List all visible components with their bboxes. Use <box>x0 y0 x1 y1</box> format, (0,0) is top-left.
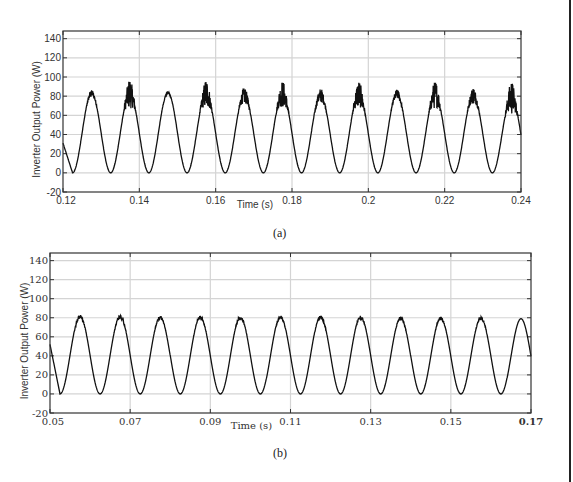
y-tick-label: 120 <box>44 52 61 63</box>
chart-panel-b: -200204060801001201400.050.070.090.110.1… <box>19 253 543 431</box>
y-tick-label: 40 <box>35 350 48 361</box>
y-tick-label: 100 <box>29 293 48 304</box>
y-tick-label: 140 <box>29 255 48 266</box>
x-tick-label: 0.13 <box>360 416 382 427</box>
x-tick-label: 0.11 <box>279 416 301 427</box>
y-tick-label: 100 <box>44 72 61 83</box>
y-tick-label: 40 <box>50 129 62 140</box>
y-tick-label: 80 <box>35 312 48 323</box>
x-tick-label: 0.14 <box>130 195 150 206</box>
x-tick-label: 0.16 <box>206 195 226 206</box>
y-axis-label: Inverter Output Power (W) <box>31 61 42 178</box>
x-tick-label: 0.09 <box>199 416 221 427</box>
x-tick-label: 0.17 <box>519 416 543 427</box>
x-tick-label: 0.07 <box>119 416 141 427</box>
y-axis-label: Inverter Output Power (W) <box>19 283 30 400</box>
y-tick-label: 60 <box>50 110 62 121</box>
x-tick-label: 0.24 <box>511 195 531 206</box>
y-tick-label: 0 <box>55 167 61 178</box>
x-tick-label: 0.12 <box>56 195 76 206</box>
y-tick-label: 120 <box>29 274 48 285</box>
x-tick-label: 0.22 <box>435 195 455 206</box>
chart-panel-a: -200204060801001201400.120.140.160.180.2… <box>31 31 531 210</box>
y-tick-label: 20 <box>50 148 62 159</box>
x-axis-label: Time (s) <box>237 199 273 210</box>
caption-b: (b) <box>273 446 287 461</box>
y-tick-label: 20 <box>35 369 48 380</box>
x-tick-label: 0.15 <box>440 416 462 427</box>
y-tick-label: 80 <box>50 91 62 102</box>
x-tick-label: 0.05 <box>42 416 64 427</box>
y-tick-label: 60 <box>35 331 48 342</box>
x-axis-label: Time (s) <box>231 420 272 431</box>
y-tick-label: 140 <box>44 33 61 44</box>
caption-a: (a) <box>273 226 286 241</box>
x-tick-label: 0.2 <box>361 195 375 206</box>
y-tick-label: 0 <box>42 388 48 399</box>
x-tick-label: 0.18 <box>282 195 302 206</box>
figure: -200204060801001201400.120.140.160.180.2… <box>0 0 573 482</box>
